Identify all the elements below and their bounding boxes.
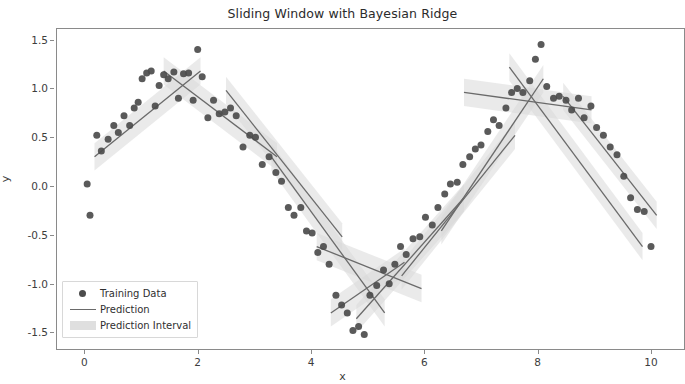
legend-label: Prediction Interval (98, 320, 191, 331)
data-point (135, 99, 142, 106)
data-point (641, 208, 648, 215)
data-point (314, 249, 321, 256)
x-tick-label: 6 (404, 356, 444, 368)
x-axis-label: x (0, 370, 685, 383)
legend-label: Prediction (98, 304, 150, 315)
data-point (156, 82, 163, 89)
y-tick-mark (50, 235, 54, 236)
data-point (115, 129, 122, 136)
data-point (543, 83, 550, 90)
y-tick-mark (50, 40, 54, 41)
data-point (568, 106, 575, 113)
data-point (508, 89, 515, 96)
data-point (416, 233, 423, 240)
x-tick-mark (424, 350, 425, 354)
data-point (285, 204, 292, 211)
band-swatch-icon (68, 318, 98, 332)
x-tick-mark (84, 350, 85, 354)
data-point (278, 178, 285, 185)
data-point (373, 282, 380, 289)
data-point (502, 105, 509, 112)
data-point (338, 302, 345, 309)
data-point (148, 67, 155, 74)
prediction-line-segment (509, 67, 642, 247)
data-point (221, 108, 228, 115)
data-point (614, 151, 621, 158)
y-tick-mark (50, 284, 54, 285)
data-point (349, 327, 356, 334)
data-point (587, 103, 594, 110)
y-tick-mark (50, 88, 54, 89)
legend-item-training-data: Training Data (68, 285, 191, 301)
data-point (165, 75, 172, 82)
data-point (309, 229, 316, 236)
x-tick-label: 10 (631, 356, 671, 368)
y-tick-label: 1.5 (0, 34, 48, 46)
data-point (429, 222, 436, 229)
data-point (190, 97, 197, 104)
data-point (87, 212, 94, 219)
data-point (410, 235, 417, 242)
data-point (297, 204, 304, 211)
data-point (386, 280, 393, 287)
y-tick-label: -0.5 (0, 229, 48, 241)
data-point (459, 161, 466, 168)
legend-item-prediction: Prediction (68, 301, 191, 317)
prediction-line-segment (95, 71, 201, 157)
data-point (454, 179, 461, 186)
legend-label: Training Data (98, 288, 167, 299)
y-tick-label: -1.0 (0, 278, 48, 290)
data-point (320, 243, 327, 250)
data-point (259, 161, 266, 168)
data-point (648, 243, 655, 250)
data-point (472, 145, 479, 152)
y-tick-label: 1.0 (0, 82, 48, 94)
data-point (478, 142, 485, 149)
data-point (194, 46, 201, 53)
data-point (490, 116, 497, 123)
data-point (634, 206, 641, 213)
data-point (152, 103, 159, 110)
data-point (175, 95, 182, 102)
data-point (332, 292, 339, 299)
line-swatch-icon (68, 302, 98, 316)
data-point (366, 292, 373, 299)
data-point (593, 124, 600, 131)
data-point (447, 181, 454, 188)
data-point (484, 128, 491, 135)
x-tick-label: 2 (178, 356, 218, 368)
prediction-line-segment (226, 90, 342, 236)
data-point (121, 112, 128, 119)
scatter-marker-icon (68, 286, 98, 300)
data-point (532, 56, 539, 63)
data-point (170, 68, 177, 75)
data-point (391, 261, 398, 268)
prediction-line-segment (271, 157, 384, 313)
data-point (434, 204, 441, 211)
data-point (422, 214, 429, 221)
data-point (519, 89, 526, 96)
x-tick-mark (311, 350, 312, 354)
data-point (514, 85, 521, 92)
data-point (538, 41, 545, 48)
x-tick-label: 4 (291, 356, 331, 368)
x-tick-mark (538, 350, 539, 354)
data-point (380, 266, 387, 273)
data-point (252, 134, 259, 141)
data-point (575, 95, 582, 102)
data-point (627, 194, 634, 201)
y-tick-mark (50, 137, 54, 138)
data-point (272, 169, 279, 176)
x-tick-mark (198, 350, 199, 354)
data-point (620, 173, 627, 180)
legend: Training Data Prediction Prediction Inte… (62, 281, 198, 338)
legend-item-prediction-interval: Prediction Interval (68, 317, 191, 333)
data-point (93, 132, 100, 139)
data-point (110, 122, 117, 129)
data-point (240, 144, 247, 151)
data-point (84, 181, 91, 188)
data-point (210, 97, 217, 104)
data-point (105, 136, 112, 143)
data-point (98, 147, 105, 154)
data-point (233, 112, 240, 119)
